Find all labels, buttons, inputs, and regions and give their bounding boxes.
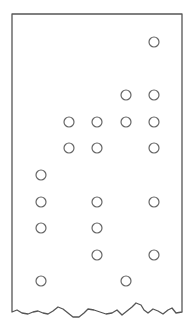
card-outline bbox=[12, 14, 182, 317]
punched-card bbox=[0, 0, 190, 329]
